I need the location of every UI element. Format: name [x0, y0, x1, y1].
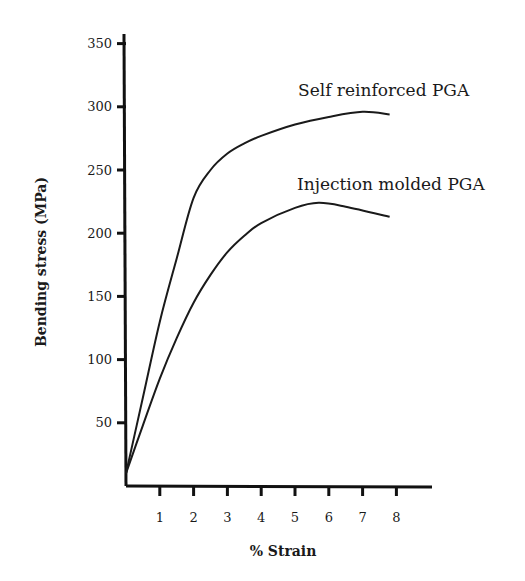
x-axis-line	[126, 486, 432, 487]
x-tick-label: 4	[257, 510, 265, 525]
x-ticks: 12345678	[156, 486, 401, 525]
x-tick-label: 3	[223, 510, 231, 525]
y-tick-label: 200	[87, 226, 112, 241]
x-tick-label: 7	[358, 510, 366, 525]
x-tick-label: 2	[189, 510, 197, 525]
y-tick-label: 350	[87, 36, 112, 51]
series-label-self-reinforced: Self reinforced PGA	[298, 80, 470, 100]
curves	[126, 112, 390, 474]
y-tick-label: 300	[87, 99, 112, 114]
x-tick-label: 5	[291, 510, 299, 525]
y-tick-label: 150	[87, 289, 112, 304]
x-tick-label: 1	[156, 510, 164, 525]
y-axis-line	[124, 34, 126, 486]
x-axis-title: % Strain	[250, 543, 317, 559]
series-label-injection-molded: Injection molded PGA	[297, 174, 485, 194]
axes	[124, 34, 432, 487]
curve-injection-molded-pga	[126, 203, 390, 474]
curve-self-reinforced-pga	[126, 112, 390, 474]
y-tick-label: 100	[87, 352, 112, 367]
y-ticks: 50100150200250300350	[87, 36, 126, 430]
series-labels: Self reinforced PGA Injection molded PGA	[297, 80, 485, 194]
y-axis-title: Bending stress (MPa)	[33, 177, 49, 347]
x-tick-label: 8	[392, 510, 400, 525]
stress-strain-chart: 50100150200250300350 12345678 Self reinf…	[0, 0, 525, 581]
x-tick-label: 6	[325, 510, 333, 525]
y-tick-label: 250	[87, 163, 112, 178]
y-tick-label: 50	[95, 415, 112, 430]
